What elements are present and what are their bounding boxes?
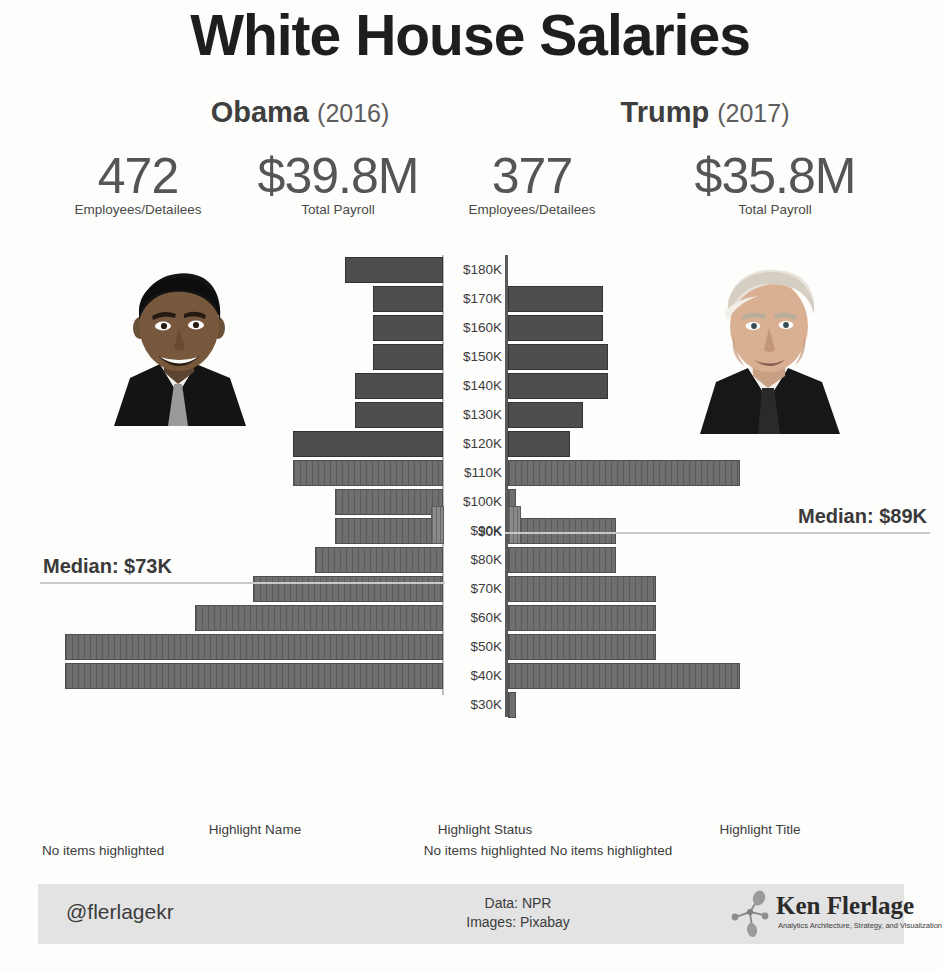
kpi-obama-employees: 472 Employees/Detailees	[38, 150, 238, 218]
bar-obama-110k[interactable]	[293, 460, 443, 486]
axis-tick-60k: $60K	[450, 603, 502, 632]
bar-obama-50k[interactable]	[65, 634, 443, 660]
salary-band-row: $130K	[0, 400, 940, 429]
axis-tick-110k: $110K	[450, 458, 502, 487]
salary-band-row: $30K	[0, 690, 940, 719]
kpi-obama-employees-caption: Employees/Detailees	[38, 202, 238, 218]
highlight-title-control[interactable]: Highlight Title No items highlighted	[600, 822, 890, 858]
bar-obama-130k[interactable]	[355, 402, 443, 428]
footer-brand: Ken Flerlage	[776, 892, 914, 920]
axis-tick-150k: $150K	[450, 342, 502, 371]
salary-band-row: $170K	[0, 284, 940, 313]
axis-tick-120k: $120K	[450, 429, 502, 458]
kpi-trump-employees: 377 Employees/Detailees	[432, 150, 632, 218]
median-label-obama: Median: $73K	[43, 555, 445, 578]
kpi-obama-payroll-caption: Total Payroll	[218, 202, 458, 218]
footer-credits: Data: NPR Images: Pixabay	[418, 894, 618, 932]
median-label-trump: Median: $89K	[505, 505, 927, 528]
axis-tick-40k: $40K	[450, 661, 502, 690]
bar-trump-40k[interactable]	[508, 663, 740, 689]
bar-trump-30k[interactable]	[508, 692, 516, 718]
kpi-obama-employees-value: 472	[38, 150, 238, 202]
bar-obama-180k[interactable]	[345, 257, 443, 283]
median-annotation-obama: Median: $73K	[40, 555, 445, 584]
bar-trump-60k[interactable]	[508, 605, 656, 631]
salary-band-row: $160K	[0, 313, 940, 342]
bar-trump-170k[interactable]	[508, 286, 603, 312]
bar-obama-120k[interactable]	[293, 431, 443, 457]
median-annotation-trump: Median: $89K	[505, 505, 930, 534]
axis-tick-80k: $80K	[450, 545, 502, 574]
bar-obama-40k[interactable]	[65, 663, 443, 689]
molecule-icon	[728, 890, 774, 938]
salary-band-row: $180K	[0, 255, 940, 284]
salary-band-row: $110K	[0, 458, 940, 487]
salary-distribution-chart: $180K$170K$160K$150K$140K$130K$120K$110K…	[0, 255, 940, 725]
bar-trump-150k[interactable]	[508, 344, 608, 370]
axis-tick-140k: $140K	[450, 371, 502, 400]
median-line-trump	[505, 532, 930, 534]
highlight-name-title: Highlight Name	[140, 822, 370, 837]
salary-band-row: $150K	[0, 342, 940, 371]
axis-tick-30k: $30K	[450, 690, 502, 719]
footer-bar: @flerlagekr Data: NPR Images: Pixabay Ke…	[38, 884, 904, 944]
kpi-trump-employees-caption: Employees/Detailees	[432, 202, 632, 218]
admin-header-obama: Obama (2016)	[155, 96, 445, 129]
admin-year-obama: (2016)	[317, 99, 389, 127]
footer-handle[interactable]: @flerlagekr	[66, 900, 174, 924]
admin-name-trump: Trump	[621, 96, 710, 128]
kpi-trump-payroll-value: $35.8M	[650, 150, 900, 202]
axis-tick-170k: $170K	[450, 284, 502, 313]
kpi-trump-employees-value: 377	[432, 150, 632, 202]
footer-credit-images: Images: Pixabay	[418, 913, 618, 932]
highlight-title-value[interactable]: No items highlighted	[550, 843, 890, 858]
highlight-name-control[interactable]: Highlight Name No items highlighted	[80, 822, 370, 858]
highlight-name-value[interactable]: No items highlighted	[42, 843, 370, 858]
admin-header-trump: Trump (2017)	[560, 96, 850, 129]
axis-tick-130k: $130K	[450, 400, 502, 429]
bar-obama-60k[interactable]	[195, 605, 443, 631]
admin-name-obama: Obama	[211, 96, 309, 128]
salary-band-row: $120K	[0, 429, 940, 458]
bar-obama-0k[interactable]	[431, 506, 444, 544]
bar-trump-140k[interactable]	[508, 373, 608, 399]
bar-trump-80k[interactable]	[508, 547, 616, 573]
bar-obama-170k[interactable]	[373, 286, 443, 312]
ken-flerlage-logo: Ken Flerlage Analytics Architecture, Str…	[728, 890, 908, 938]
highlight-status-title: Highlight Status	[380, 822, 590, 837]
axis-tick-50k: $50K	[450, 632, 502, 661]
page-title: White House Salaries	[0, 2, 940, 68]
bar-trump-120k[interactable]	[508, 431, 570, 457]
salary-band-row: $60K	[0, 603, 940, 632]
axis-tick-180k: $180K	[450, 255, 502, 284]
bar-trump-160k[interactable]	[508, 315, 603, 341]
kpi-obama-payroll-value: $39.8M	[218, 150, 458, 202]
bar-trump-110k[interactable]	[508, 460, 740, 486]
kpi-obama-payroll: $39.8M Total Payroll	[218, 150, 458, 218]
footer-tagline: Analytics Architecture, Strategy, and Vi…	[778, 921, 942, 930]
bar-trump-70k[interactable]	[508, 576, 656, 602]
salary-band-row: $140K	[0, 371, 940, 400]
axis-tick-70k: $70K	[450, 574, 502, 603]
axis-tick-160k: $160K	[450, 313, 502, 342]
kpi-trump-payroll: $35.8M Total Payroll	[650, 150, 900, 218]
footer-credit-data: Data: NPR	[418, 894, 618, 913]
salary-band-row: $50K	[0, 632, 940, 661]
bar-trump-50k[interactable]	[508, 634, 656, 660]
salary-band-row: $40K	[0, 661, 940, 690]
axis-tick-0k: $0K	[450, 522, 502, 542]
admin-year-trump: (2017)	[717, 99, 789, 127]
kpi-trump-payroll-caption: Total Payroll	[650, 202, 900, 218]
bar-trump-130k[interactable]	[508, 402, 583, 428]
bar-obama-140k[interactable]	[355, 373, 443, 399]
bar-obama-160k[interactable]	[373, 315, 443, 341]
bar-obama-150k[interactable]	[373, 344, 443, 370]
median-line-obama	[40, 582, 445, 584]
highlight-title-title: Highlight Title	[630, 822, 890, 837]
